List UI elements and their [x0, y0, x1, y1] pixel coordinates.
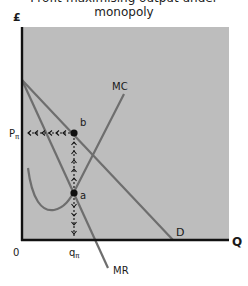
x-axis-label: Q — [232, 235, 242, 249]
demand-label: D — [176, 226, 184, 239]
point-b-label: b — [80, 117, 86, 128]
origin-label: 0 — [13, 247, 19, 258]
point-b — [70, 129, 77, 136]
quantity-label: qπ — [69, 247, 80, 260]
mr-label: MR — [113, 265, 129, 276]
y-axis-label: £ — [13, 11, 21, 24]
mc-label: MC — [112, 81, 128, 92]
point-a — [70, 189, 77, 196]
monopoly-diagram: £ Q 0 MC MR D b a Pπ qπ — [0, 0, 248, 286]
point-a-label: a — [80, 190, 86, 201]
price-label: Pπ — [9, 128, 20, 141]
